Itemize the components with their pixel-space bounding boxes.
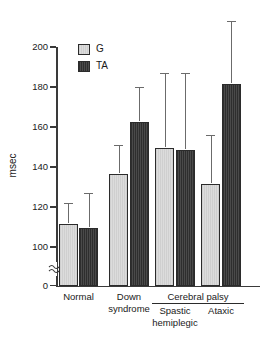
bar-ta-down-syndrome — [130, 122, 149, 287]
y-tick-label-200: 200 — [32, 42, 48, 52]
y-tick-label-140: 140 — [32, 162, 48, 172]
y-tick-label-wrap-0: 0 — [0, 281, 48, 291]
error-cap-g-spastic-hemiplegic — [160, 73, 169, 74]
error-bar-ta-normal — [89, 193, 90, 227]
x-label-cerebral-palsy: Cerebral palsy — [143, 291, 253, 302]
error-bar-g-down-syndrome — [119, 145, 120, 173]
y-tick-label-120: 120 — [32, 202, 48, 212]
chart-figure: msec 2001801601401201000 G TA Normal Dow… — [0, 0, 272, 342]
error-cap-ta-down-syndrome — [135, 87, 144, 88]
error-bar-ta-down-syndrome — [139, 87, 140, 121]
bar-ta-spastic-hemiplegic — [176, 150, 195, 287]
bar-g-normal — [59, 224, 78, 287]
y-tick-label-wrap-160: 160 — [0, 122, 48, 132]
y-tick-label-wrap-100: 100 — [0, 242, 48, 252]
y-tick-label-100: 100 — [32, 242, 48, 252]
bar-g-spastic-hemiplegic — [155, 148, 174, 287]
cerebral-palsy-bracket — [152, 303, 244, 304]
y-tick-label-160: 160 — [32, 122, 48, 132]
y-tick-label-0: 0 — [43, 281, 48, 291]
error-bar-g-normal — [68, 203, 69, 223]
y-tick-label-wrap-140: 140 — [0, 162, 48, 172]
error-bar-ta-ataxic — [231, 21, 232, 83]
x-label-ataxic: Ataxic — [191, 305, 251, 316]
error-cap-ta-ataxic — [227, 21, 236, 22]
plot-area — [56, 10, 260, 286]
bar-ta-ataxic — [222, 84, 241, 287]
y-tick-label-wrap-180: 180 — [0, 82, 48, 92]
error-bar-g-spastic-hemiplegic — [165, 73, 166, 147]
error-cap-g-down-syndrome — [114, 145, 123, 146]
error-bar-g-ataxic — [211, 135, 212, 183]
y-tick-label-180: 180 — [32, 82, 48, 92]
error-cap-ta-spastic-hemiplegic — [181, 73, 190, 74]
bar-g-down-syndrome — [109, 174, 128, 287]
y-tick-label-wrap-120: 120 — [0, 202, 48, 212]
error-cap-ta-normal — [84, 193, 93, 194]
bar-g-ataxic — [201, 184, 220, 287]
bar-ta-normal — [79, 228, 98, 287]
error-cap-g-normal — [64, 203, 73, 204]
y-tick-label-wrap-200: 200 — [0, 42, 48, 52]
error-cap-g-ataxic — [206, 135, 215, 136]
x-label-spastic-line2: hemiplegic — [135, 317, 215, 328]
error-bar-ta-spastic-hemiplegic — [185, 73, 186, 149]
